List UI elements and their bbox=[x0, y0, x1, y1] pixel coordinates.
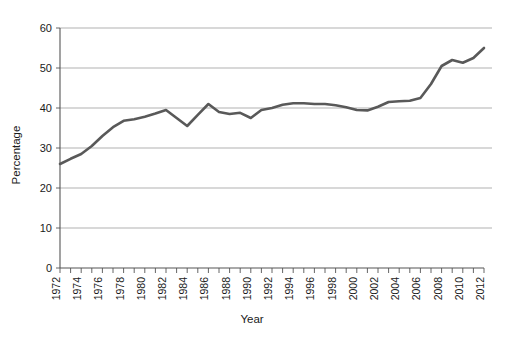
x-tick-label-1978: 1978 bbox=[114, 277, 126, 301]
chart-canvas: 0102030405060 19721974197619781980198219… bbox=[0, 0, 507, 337]
x-tick-label-1974: 1974 bbox=[71, 277, 83, 301]
x-tick-label-1972: 1972 bbox=[50, 277, 62, 301]
x-tick-label-2010: 2010 bbox=[453, 277, 465, 301]
y-tick-label-10: 10 bbox=[40, 222, 52, 234]
x-tick-label-1988: 1988 bbox=[220, 277, 232, 301]
x-tick-label-1994: 1994 bbox=[283, 277, 295, 301]
x-tick-label-1984: 1984 bbox=[177, 277, 189, 301]
x-tick-label-2000: 2000 bbox=[347, 277, 359, 301]
y-axis-title: Percentage bbox=[10, 126, 22, 185]
y-tick-label-40: 40 bbox=[40, 102, 52, 114]
y-tick-label-50: 50 bbox=[40, 62, 52, 74]
x-tick-label-1986: 1986 bbox=[198, 277, 210, 301]
x-tick-label-2004: 2004 bbox=[389, 277, 401, 301]
x-tick-label-1982: 1982 bbox=[156, 277, 168, 301]
x-tick-label-1990: 1990 bbox=[241, 277, 253, 301]
y-tick-label-30: 30 bbox=[40, 142, 52, 154]
x-tick-label-2006: 2006 bbox=[410, 277, 422, 301]
x-tick-label-1976: 1976 bbox=[92, 277, 104, 301]
x-tick-label-2012: 2012 bbox=[474, 277, 486, 301]
x-tick-label-1992: 1992 bbox=[262, 277, 274, 301]
line-chart-figure: 0102030405060 19721974197619781980198219… bbox=[0, 0, 507, 337]
y-tick-label-60: 60 bbox=[40, 22, 52, 34]
x-tick-label-2008: 2008 bbox=[432, 277, 444, 301]
y-tick-label-20: 20 bbox=[40, 182, 52, 194]
x-tick-label-1998: 1998 bbox=[326, 277, 338, 301]
x-tick-label-2002: 2002 bbox=[368, 277, 380, 301]
x-axis-title: Year bbox=[240, 313, 263, 325]
x-tick-label-1980: 1980 bbox=[135, 277, 147, 301]
x-tick-label-1996: 1996 bbox=[304, 277, 316, 301]
y-tick-label-0: 0 bbox=[46, 262, 52, 274]
